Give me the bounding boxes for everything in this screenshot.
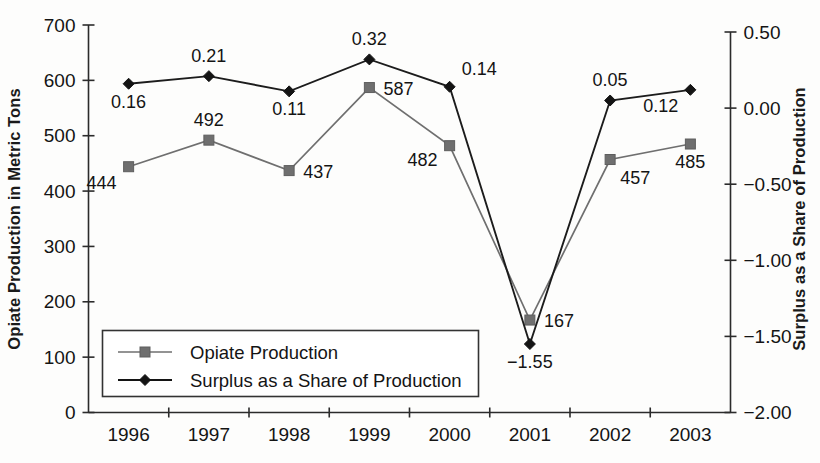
data-point-label: 0.16 bbox=[111, 92, 146, 112]
x-axis-label: 2002 bbox=[589, 424, 631, 445]
chart-container: Opiate Production in Metric Tons Surplus… bbox=[0, 0, 820, 463]
data-point-label: 0.21 bbox=[191, 46, 226, 66]
x-axis-label: 1997 bbox=[188, 424, 230, 445]
y-tick-label-left: 100 bbox=[44, 347, 76, 368]
data-point-label: 0.32 bbox=[352, 29, 387, 49]
x-axis-label: 2001 bbox=[509, 424, 551, 445]
data-point-marker[interactable] bbox=[444, 81, 455, 92]
data-point-marker[interactable] bbox=[203, 71, 214, 82]
data-labels: 4444924375874821674574850.160.210.110.32… bbox=[87, 29, 706, 372]
data-point-marker[interactable] bbox=[204, 135, 214, 145]
x-axis-label: 1999 bbox=[348, 424, 390, 445]
legend-square-icon bbox=[140, 347, 150, 357]
y-tick-label-right: −1.50 bbox=[744, 326, 792, 347]
legend: Opiate ProductionSurplus as a Share of P… bbox=[103, 331, 479, 397]
x-axis-label: 2003 bbox=[669, 424, 711, 445]
y-axis-left-ticks: 0100200300400500600700 bbox=[44, 15, 95, 424]
x-axis-label: 1996 bbox=[107, 424, 149, 445]
y-tick-label-right: −2.00 bbox=[744, 402, 792, 423]
data-point-marker[interactable] bbox=[364, 83, 374, 93]
y-tick-label-left: 600 bbox=[44, 70, 76, 91]
data-point-label: 482 bbox=[408, 150, 438, 170]
data-point-label: −1.55 bbox=[507, 352, 553, 372]
y-tick-label-right: −1.00 bbox=[744, 250, 792, 271]
y-tick-label-right: 0.00 bbox=[744, 98, 781, 119]
data-point-label: 492 bbox=[194, 110, 224, 130]
data-point-marker[interactable] bbox=[123, 78, 134, 89]
y-tick-label-left: 0 bbox=[65, 402, 76, 423]
data-point-marker[interactable] bbox=[284, 86, 295, 97]
y-tick-label-left: 700 bbox=[44, 15, 76, 36]
y-tick-label-right: −0.50 bbox=[744, 174, 792, 195]
legend-label: Surplus as a Share of Production bbox=[190, 370, 462, 391]
y-tick-label-left: 200 bbox=[44, 291, 76, 312]
data-point-marker[interactable] bbox=[284, 166, 294, 176]
y-tick-label-left: 400 bbox=[44, 181, 76, 202]
data-point-label: 0.11 bbox=[272, 99, 306, 119]
data-point-marker[interactable] bbox=[605, 155, 615, 165]
line-chart: Opiate Production in Metric Tons Surplus… bbox=[0, 0, 820, 463]
y-axis-title-right: Surplus as a Share of Production bbox=[790, 87, 808, 351]
data-point-marker[interactable] bbox=[524, 339, 535, 350]
y-tick-label-left: 500 bbox=[44, 125, 76, 146]
y-axis-title-left: Opiate Production in Metric Tons bbox=[5, 88, 23, 349]
data-point-marker[interactable] bbox=[685, 84, 696, 95]
data-point-label: 0.12 bbox=[643, 96, 678, 116]
legend-label: Opiate Production bbox=[190, 342, 338, 363]
data-point-label: 167 bbox=[544, 311, 574, 331]
data-point-marker[interactable] bbox=[364, 54, 375, 65]
data-point-marker[interactable] bbox=[605, 95, 616, 106]
data-point-label: 444 bbox=[87, 173, 117, 193]
data-point-marker[interactable] bbox=[525, 315, 535, 325]
y-tick-label-right: 0.50 bbox=[744, 22, 781, 43]
x-axis-label: 2000 bbox=[428, 424, 470, 445]
y-tick-label-left: 300 bbox=[44, 236, 76, 257]
x-axis-category-labels: 19961997199819992000200120022003 bbox=[107, 424, 711, 445]
data-point-label: 485 bbox=[675, 152, 705, 172]
x-axis-label: 1998 bbox=[268, 424, 310, 445]
data-point-label: 587 bbox=[383, 79, 413, 99]
data-point-label: 0.05 bbox=[593, 70, 628, 90]
data-point-label: 0.14 bbox=[462, 59, 497, 79]
data-point-marker[interactable] bbox=[124, 162, 134, 172]
y-axis-right-ticks: −2.00−1.50−1.00−0.500.000.50 bbox=[725, 22, 792, 424]
data-point-marker[interactable] bbox=[685, 139, 695, 149]
data-point-marker[interactable] bbox=[445, 141, 455, 151]
data-point-label: 457 bbox=[620, 168, 650, 188]
data-point-label: 437 bbox=[303, 162, 333, 182]
